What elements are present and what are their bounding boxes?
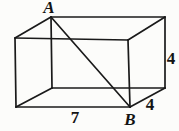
cuboid-diagram-svg: AB744	[0, 0, 179, 131]
edge-top-left-slant	[15, 17, 51, 38]
width-label: 7	[71, 108, 80, 127]
vertex-label-a: A	[42, 0, 54, 17]
edge-front-right	[128, 40, 130, 107]
edge-front-left	[15, 38, 16, 107]
cuboid-figure: AB744	[0, 0, 179, 131]
edge-bottom-left-slant	[16, 88, 52, 107]
space-diagonal-ab	[51, 17, 130, 107]
edge-back-left	[51, 17, 52, 88]
height-label: 4	[167, 49, 176, 68]
depth-label: 4	[146, 95, 155, 114]
vertex-label-b: B	[123, 110, 135, 129]
edge-top-right-slant	[128, 17, 165, 40]
